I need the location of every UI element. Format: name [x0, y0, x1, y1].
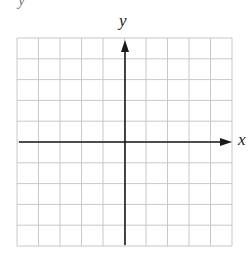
y-axis-label: y [119, 12, 127, 29]
x-axis-label: x [238, 131, 246, 148]
axes [19, 40, 232, 245]
y-axis-arrow-icon [121, 40, 129, 52]
x-axis-arrow-icon [220, 138, 232, 146]
grid-plot [0, 0, 252, 253]
coordinate-plane: y y x [0, 0, 252, 253]
